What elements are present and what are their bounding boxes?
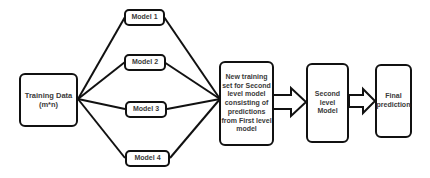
node-model-1: Model 1 bbox=[124, 9, 165, 26]
edge-training-model2 bbox=[78, 62, 125, 99]
node-label: Model 2 bbox=[132, 58, 158, 67]
node-label: Training Data (m*n) bbox=[25, 91, 73, 110]
node-label: Second level Model bbox=[315, 90, 340, 116]
node-model-4: Model 4 bbox=[125, 150, 170, 167]
edge-training-model1 bbox=[78, 17, 125, 99]
block-arrow-icon bbox=[349, 89, 375, 113]
node-label: Model 1 bbox=[131, 13, 157, 22]
block-arrow-icon bbox=[273, 88, 306, 116]
node-label: Model 4 bbox=[134, 154, 160, 163]
node-model-3: Model 3 bbox=[125, 101, 167, 118]
edge-model1-newset bbox=[164, 17, 220, 99]
node-second-level-model: Second level Model bbox=[306, 63, 349, 143]
node-label: New training set for Second level model … bbox=[221, 73, 271, 134]
edge-model2-newset bbox=[164, 62, 220, 99]
node-label: Model 3 bbox=[133, 105, 159, 114]
node-training-data: Training Data (m*n) bbox=[19, 73, 78, 127]
node-model-2: Model 2 bbox=[124, 54, 166, 71]
node-final-prediction: Final prediction bbox=[375, 64, 412, 138]
node-new-training-set: New training set for Second level model … bbox=[219, 61, 274, 146]
node-label: Final prediction bbox=[377, 92, 411, 110]
